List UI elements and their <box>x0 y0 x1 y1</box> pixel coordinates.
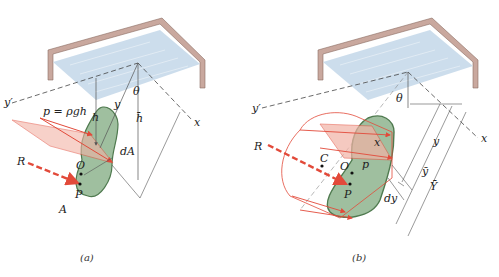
label-R-a: R <box>16 155 25 168</box>
label-x-a: x <box>194 116 201 129</box>
label-P-b: P <box>343 188 352 201</box>
label-x-b: x <box>481 132 488 145</box>
panel-b: y′ x θ y ȳ Ȳ dy x p R C <box>251 18 488 263</box>
label-C: C <box>320 152 329 165</box>
label-O-b: O <box>340 160 349 173</box>
label-O-a: O <box>76 159 85 172</box>
label-dA: dA <box>120 145 135 158</box>
label-y-a: y <box>113 98 121 111</box>
label-dy: dy <box>384 192 398 205</box>
resultant-arrow-b <box>268 145 346 184</box>
caption-b: (b) <box>352 252 366 263</box>
label-p-b: p <box>362 158 369 171</box>
panel-a: y′ x θ y h h̄ p = ρgh dA R O P A (a) <box>3 18 205 263</box>
label-P-a: P <box>74 188 83 201</box>
label-pressure-a: p = ρgh <box>43 105 87 118</box>
tank-a <box>48 18 205 100</box>
label-h-a: h <box>92 111 99 124</box>
label-y-prime-b: y′ <box>251 102 261 115</box>
label-R-b: R <box>253 140 262 153</box>
label-theta-b: θ <box>396 92 403 105</box>
label-y-prime-a: y′ <box>3 96 13 109</box>
tank-b <box>318 18 478 100</box>
label-theta-a: θ <box>133 85 140 98</box>
label-h-bar-a: h̄ <box>136 112 143 125</box>
label-x-plate-b: x <box>374 136 381 149</box>
label-A: A <box>58 203 67 216</box>
resultant-arrow-a <box>28 163 78 183</box>
caption-a: (a) <box>80 252 94 263</box>
figure-canvas: y′ x θ y h h̄ p = ρgh dA R O P A (a) <box>0 0 499 277</box>
label-y-bar-b: ȳ <box>421 165 429 178</box>
label-y-b: y <box>432 135 440 148</box>
label-Y-bar-b: Ȳ <box>430 180 439 193</box>
